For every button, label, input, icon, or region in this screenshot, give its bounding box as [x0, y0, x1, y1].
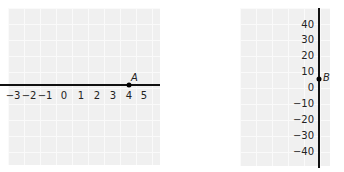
x-tick: 5 [141, 90, 147, 101]
y-tick: −10 [284, 98, 314, 109]
x-tick: 4 [126, 90, 132, 101]
point-b [317, 77, 322, 82]
y-tick: 40 [284, 19, 314, 30]
horizontal-number-line-panel [8, 8, 160, 165]
y-tick: 30 [284, 34, 314, 45]
y-tick: −30 [284, 130, 314, 141]
horizontal-axis [0, 84, 160, 86]
y-tick: −20 [284, 114, 314, 125]
x-tick: −1 [38, 90, 53, 101]
y-tick: 20 [284, 50, 314, 61]
point-b-label: B [323, 72, 330, 83]
y-tick: 10 [284, 66, 314, 77]
x-tick: 2 [94, 90, 100, 101]
x-tick: 3 [110, 90, 116, 101]
point-a [127, 83, 132, 88]
point-a-label: A [131, 72, 138, 83]
x-tick: −3 [6, 90, 21, 101]
y-tick: −40 [284, 146, 314, 157]
y-tick: 0 [284, 82, 314, 93]
x-tick: 0 [61, 90, 67, 101]
x-tick: −2 [22, 90, 37, 101]
x-tick: 1 [78, 90, 84, 101]
vertical-axis [318, 8, 320, 168]
